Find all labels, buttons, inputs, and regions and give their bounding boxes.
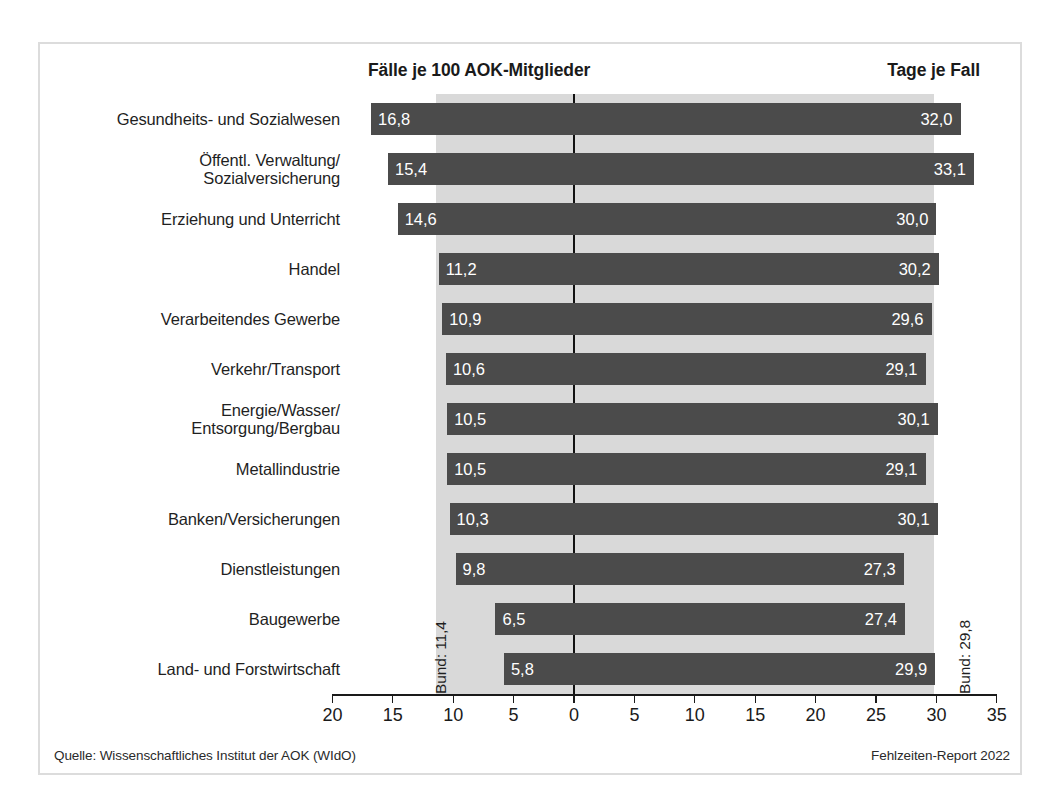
bar-value-tage: 29,6 [574,303,932,335]
bund-annotation-right: Bund: 29,8 [956,620,974,694]
bar-value-faelle: 10,5 [447,403,574,435]
x-axis: 201510505101520253035 [40,694,1024,744]
x-axis-line [332,694,996,696]
chart-figure: Fälle je 100 AOK-Mitglieder Tage je Fall… [38,42,1022,775]
axis-tick [392,694,393,703]
bar-row: 14,630,0 [40,194,1024,244]
axis-tick-label: 15 [745,705,765,726]
column-header-faelle: Fälle je 100 AOK-Mitglieder [368,60,590,81]
axis-tick [332,694,333,703]
bar-value-tage: 27,4 [574,603,905,635]
column-header-tage: Tage je Fall [850,60,980,81]
bar-value-tage: 29,9 [574,653,935,685]
bund-annotation-left: Bund: 11,4 [432,621,450,694]
bar-value-faelle: 10,9 [442,303,574,335]
axis-tick [453,694,454,703]
axis-tick [755,694,756,703]
axis-tick-label: 0 [569,705,579,726]
bar-value-tage: 30,2 [574,253,939,285]
bar-value-tage: 30,0 [574,203,936,235]
axis-tick [573,694,574,703]
bar-value-faelle: 10,5 [447,453,574,485]
axis-tick-label: 25 [866,705,886,726]
axis-tick-label: 5 [509,705,519,726]
axis-tick-label: 20 [806,705,826,726]
bar-value-tage: 33,1 [574,153,974,185]
bar-row: 10,530,1 [40,394,1024,444]
axis-tick [996,694,997,703]
bar-row: 9,827,3 [40,544,1024,594]
bar-value-faelle: 5,8 [504,653,574,685]
bar-value-faelle: 16,8 [371,103,574,135]
axis-tick-label: 20 [322,705,342,726]
bar-value-tage: 30,1 [574,403,938,435]
plot-area: 16,832,015,433,114,630,011,230,210,929,6… [40,94,1024,694]
axis-tick [634,694,635,703]
axis-tick-label: 5 [629,705,639,726]
bar-row: 6,527,4 [40,594,1024,644]
bar-row: 10,330,1 [40,494,1024,544]
axis-tick-label: 30 [926,705,946,726]
bar-value-faelle: 15,4 [388,153,574,185]
source-note: Quelle: Wissenschaftliches Institut der … [54,748,356,763]
bar-row: 11,230,2 [40,244,1024,294]
axis-tick [694,694,695,703]
bar-value-faelle: 10,3 [450,503,574,535]
bar-value-tage: 32,0 [574,103,961,135]
axis-tick [936,694,937,703]
bar-value-faelle: 11,2 [439,253,574,285]
bar-value-faelle: 10,6 [446,353,574,385]
report-note: Fehlzeiten-Report 2022 [871,748,1010,763]
bar-row: 16,832,0 [40,94,1024,144]
bar-value-faelle: 6,5 [495,603,574,635]
axis-tick [513,694,514,703]
axis-tick-label: 35 [987,705,1007,726]
bar-row: 15,433,1 [40,144,1024,194]
figure-footer: Quelle: Wissenschaftliches Institut der … [40,748,1024,763]
axis-tick-label: 10 [443,705,463,726]
bar-value-tage: 30,1 [574,503,938,535]
axis-tick [815,694,816,703]
bar-value-faelle: 14,6 [398,203,574,235]
bar-row: 10,629,1 [40,344,1024,394]
bar-value-tage: 29,1 [574,353,926,385]
bar-row: 10,929,6 [40,294,1024,344]
bar-row: 10,529,1 [40,444,1024,494]
bar-row: 5,829,9 [40,644,1024,694]
axis-tick-label: 15 [383,705,403,726]
axis-tick-label: 10 [685,705,705,726]
bar-value-faelle: 9,8 [456,553,574,585]
bar-value-tage: 27,3 [574,553,904,585]
bar-value-tage: 29,1 [574,453,926,485]
axis-tick [875,694,876,703]
